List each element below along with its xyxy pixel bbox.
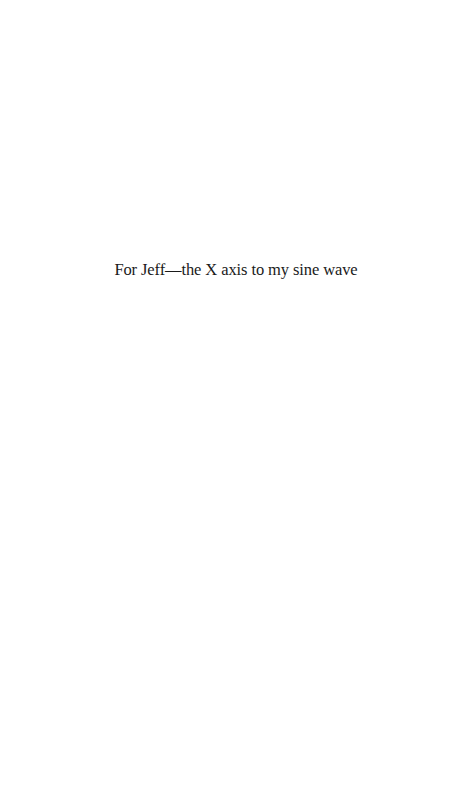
book-page: For Jeff—the X axis to my sine wave: [0, 0, 472, 811]
dedication-text: For Jeff—the X axis to my sine wave: [0, 259, 472, 281]
